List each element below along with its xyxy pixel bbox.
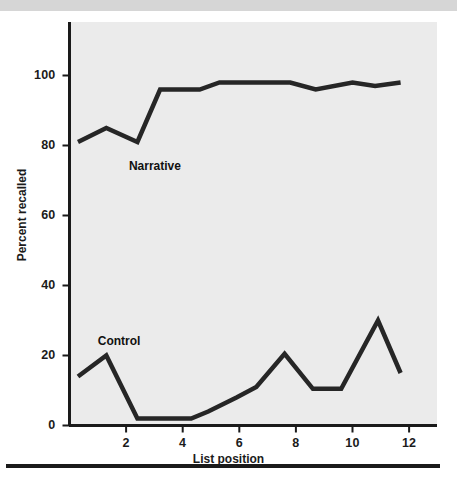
y-tick-label: 0 xyxy=(16,418,56,432)
y-tick-label: 40 xyxy=(16,278,56,292)
bottom-rule xyxy=(6,464,440,468)
x-tick-label: 6 xyxy=(224,436,254,450)
y-tick-label: 100 xyxy=(16,68,56,82)
x-tick-label: 2 xyxy=(111,436,141,450)
figure-container: 020406080100 24681012 Percent recalled L… xyxy=(0,0,457,484)
x-tick-label: 12 xyxy=(394,436,424,450)
chart-svg xyxy=(0,0,457,484)
data-series-group xyxy=(78,83,401,419)
series-label-narrative: Narrative xyxy=(129,159,181,173)
x-tick-label: 8 xyxy=(281,436,311,450)
y-tick-label: 80 xyxy=(16,138,56,152)
y-tick-label: 20 xyxy=(16,348,56,362)
series-label-control: Control xyxy=(98,334,141,348)
x-tick-label: 4 xyxy=(168,436,198,450)
series-line-narrative xyxy=(78,83,401,143)
x-tick-label: 10 xyxy=(338,436,368,450)
y-axis-title: Percent recalled xyxy=(15,155,29,275)
